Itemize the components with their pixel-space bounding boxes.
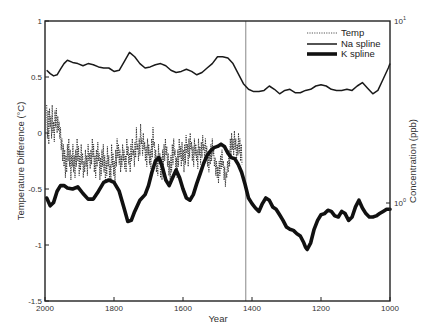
- temp-series-line: [47, 105, 242, 187]
- x-tick-label: 1400: [243, 304, 261, 313]
- x-tick-label: 2000: [36, 304, 54, 313]
- x-tick-label: 1800: [105, 304, 123, 313]
- x-axis-title: Year: [208, 313, 227, 324]
- y2-tick-mid: 100: [394, 197, 406, 208]
- legend-k-label: K spline: [341, 48, 375, 59]
- chart-canvas: 10.50-0.5-1-1.5 200018001600140012001000…: [0, 0, 430, 334]
- x-axis-ticks: 200018001600140012001000: [36, 297, 399, 313]
- y-axis-title: Temperature Difference (°C): [15, 102, 26, 221]
- legend-temp-label: Temp: [341, 27, 364, 38]
- y2-tick-top: 101: [394, 15, 406, 26]
- x-tick-label: 1600: [174, 304, 192, 313]
- y-tick-label: -0.5: [28, 185, 42, 194]
- y-tick-label: 1: [38, 17, 43, 26]
- x-tick-label: 1000: [381, 304, 399, 313]
- y2-axis-title: Concentration (ppb): [407, 119, 418, 203]
- plot-frame: [45, 21, 390, 301]
- x-tick-label: 1200: [312, 304, 330, 313]
- y-tick-label: 0.5: [31, 73, 43, 82]
- y-tick-label: 0: [38, 129, 43, 138]
- na-spline-line: [47, 52, 390, 93]
- y-axis-ticks: 10.50-0.5-1-1.5: [28, 17, 49, 306]
- legend: Temp Na spline K spline: [307, 27, 381, 59]
- y-tick-label: -1: [35, 241, 43, 250]
